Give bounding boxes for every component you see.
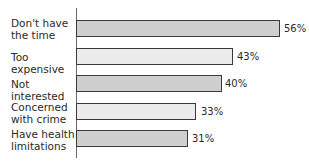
category-label: Don't have the time [11,17,75,41]
bar-concerned-with-crime [76,103,196,120]
label-line: Not interested [11,78,75,102]
label-line: limitations [11,140,75,152]
label-line: with crime [11,113,75,125]
category-label: Too expensive [11,51,75,75]
label-line: Don't have [11,17,75,29]
value-label: 56% [284,23,306,35]
value-label: 33% [201,106,223,118]
bar-health-limitations [76,130,188,147]
label-line: Concerned [11,101,75,113]
value-label: 40% [225,78,247,90]
category-label: Have health limitations [11,128,75,152]
bar-too-expensive [76,48,233,65]
label-line: the time [11,29,75,41]
bar-not-interested [76,75,222,92]
category-label: Not interested [11,78,75,102]
value-label: 43% [237,51,259,63]
category-label: Concerned with crime [11,101,75,125]
bar-chart: Don't have the time 56% Too expensive 43… [0,0,309,165]
label-line: Too expensive [11,51,75,75]
value-label: 31% [192,133,214,145]
label-line: Have health [11,128,75,140]
bar-dont-have-time [76,20,280,37]
